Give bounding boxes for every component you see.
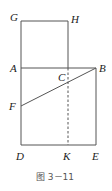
label-F: F xyxy=(8,100,16,112)
label-C: C xyxy=(58,71,66,83)
label-H: H xyxy=(70,13,80,25)
label-D: D xyxy=(15,150,24,162)
geometry-figure: G H A C B F D K E 图 3－11 xyxy=(0,0,112,191)
label-G: G xyxy=(10,11,18,23)
figure-caption: 图 3－11 xyxy=(36,172,74,182)
label-A: A xyxy=(9,62,17,74)
label-B: B xyxy=(99,62,106,74)
label-E: E xyxy=(91,150,99,162)
label-K: K xyxy=(62,150,71,162)
